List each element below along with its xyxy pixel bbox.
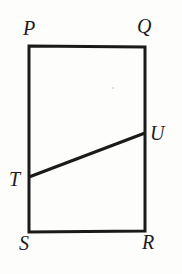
vertex-label-r: R bbox=[142, 232, 154, 252]
vertex-label-q: Q bbox=[137, 16, 151, 36]
vertex-label-s: S bbox=[19, 233, 29, 253]
vertex-label-p: P bbox=[23, 18, 35, 38]
segment-tu bbox=[29, 133, 145, 177]
vertex-label-u: U bbox=[150, 123, 164, 143]
scan-speck-artifact bbox=[112, 87, 114, 89]
geometry-figure: P Q U T S R bbox=[0, 0, 182, 274]
vertex-label-t: T bbox=[9, 169, 20, 189]
